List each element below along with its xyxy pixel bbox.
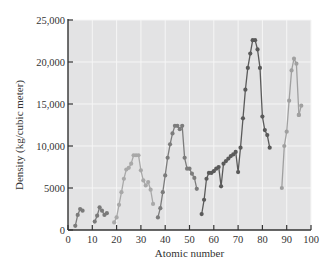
data-point — [146, 180, 150, 184]
data-point — [93, 220, 97, 224]
data-point — [243, 88, 247, 92]
x-tick-label: 40 — [160, 234, 171, 245]
data-point — [187, 167, 191, 171]
data-point — [115, 215, 119, 219]
x-tick-label: 20 — [111, 234, 122, 245]
x-tick-label: 10 — [87, 234, 98, 245]
data-point — [180, 124, 184, 128]
x-tick-label: 0 — [65, 234, 70, 245]
y-tick-label: 5000 — [44, 183, 65, 194]
data-point — [292, 57, 296, 61]
y-tick-label: 10,000 — [36, 141, 65, 152]
data-point — [258, 66, 262, 70]
data-point — [280, 186, 284, 190]
data-point — [178, 127, 182, 131]
data-point — [73, 224, 77, 228]
data-point — [285, 130, 289, 134]
data-point — [265, 133, 269, 137]
data-point — [139, 168, 143, 172]
density-chart: 0102030405060708090100 0500010,00015,000… — [0, 0, 330, 271]
x-tick-label: 60 — [209, 234, 220, 245]
data-point — [299, 104, 303, 108]
data-point — [76, 213, 80, 217]
data-point — [236, 170, 240, 174]
data-point — [100, 209, 104, 213]
data-point — [129, 162, 133, 166]
data-point — [202, 198, 206, 202]
data-point — [255, 47, 259, 51]
data-point — [200, 212, 204, 216]
data-point — [287, 99, 291, 103]
data-point — [97, 205, 101, 209]
x-tick-label: 80 — [257, 234, 268, 245]
data-point — [166, 156, 170, 160]
data-point — [149, 188, 153, 192]
data-point — [95, 214, 99, 218]
data-point — [141, 178, 145, 182]
y-axis-title: Density (kg/cubic meter) — [13, 80, 26, 190]
data-point — [204, 177, 208, 181]
data-point — [170, 131, 174, 135]
data-point — [192, 176, 196, 180]
data-point — [151, 202, 155, 206]
data-point — [136, 153, 140, 157]
x-tick-label: 70 — [233, 234, 244, 245]
data-point — [183, 156, 187, 160]
data-point — [234, 150, 238, 154]
data-point — [117, 203, 121, 207]
data-point — [163, 173, 167, 177]
data-point — [238, 146, 242, 150]
data-point — [297, 113, 301, 117]
data-point — [122, 177, 126, 181]
data-point — [158, 206, 162, 210]
data-point — [80, 209, 84, 213]
data-point — [263, 128, 267, 132]
y-tick-label: 0 — [60, 225, 65, 236]
data-point — [156, 215, 160, 219]
data-point — [260, 115, 264, 119]
x-tick-label: 90 — [281, 234, 292, 245]
data-point — [253, 38, 257, 42]
data-point — [289, 68, 293, 72]
data-point — [190, 172, 194, 176]
data-point — [161, 190, 165, 194]
data-point — [282, 144, 286, 148]
data-point — [175, 124, 179, 128]
y-tick-label: 15,000 — [36, 99, 65, 110]
data-point — [241, 116, 245, 120]
data-point — [219, 184, 223, 188]
y-tick-label: 20,000 — [36, 57, 65, 68]
data-point — [248, 52, 252, 56]
data-point — [105, 211, 109, 215]
data-point — [268, 146, 272, 150]
data-point — [294, 62, 298, 66]
data-point — [127, 166, 131, 170]
data-point — [217, 165, 221, 169]
data-point — [246, 66, 250, 70]
x-tick-label: 30 — [136, 234, 147, 245]
x-tick-label: 100 — [303, 234, 319, 245]
data-point — [112, 220, 116, 224]
data-point — [168, 142, 172, 146]
data-point — [119, 190, 123, 194]
x-tick-label: 50 — [184, 234, 195, 245]
data-point — [144, 183, 148, 187]
data-point — [195, 187, 199, 191]
x-axis-title: Atomic number — [155, 247, 225, 259]
y-tick-label: 25,000 — [36, 15, 65, 26]
